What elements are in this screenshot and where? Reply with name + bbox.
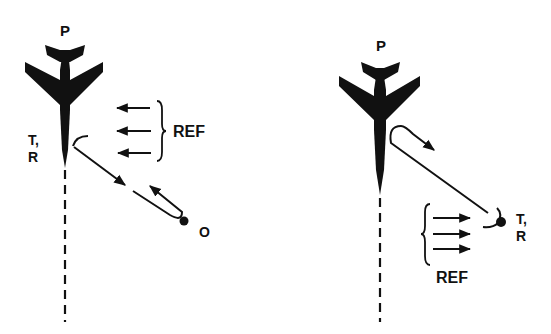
diagram-canvas: P T, R O REF P	[0, 0, 551, 334]
tr-label-right-1: T,	[516, 211, 527, 227]
reference-arrows-right	[433, 218, 470, 249]
right-panel: P T, R REF	[339, 37, 527, 322]
tr-label-right-2: R	[516, 228, 526, 244]
aircraft-label-right: P	[376, 37, 386, 54]
reference-arrows-left	[117, 108, 151, 153]
ref-label-right: REF	[436, 269, 468, 286]
object-label: O	[199, 224, 210, 240]
ray-loop-right	[390, 126, 488, 213]
antenna-arc-left	[73, 136, 88, 146]
aircraft-label-left: P	[60, 22, 70, 39]
object-point-o	[180, 217, 189, 226]
return-ray-left	[133, 186, 182, 218]
brace-left	[157, 101, 166, 161]
ref-label-left: REF	[173, 123, 205, 140]
left-panel: P T, R O REF	[25, 22, 210, 322]
brace-right	[421, 204, 430, 265]
tr-point-right	[496, 217, 506, 227]
tr-label-left-1: T,	[28, 132, 39, 148]
tr-label-left-2: R	[28, 149, 38, 165]
outgoing-ray-left	[74, 147, 125, 185]
